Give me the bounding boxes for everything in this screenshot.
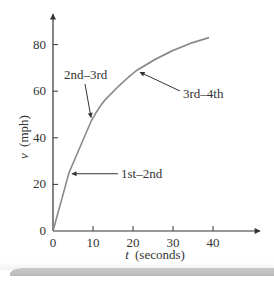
y-tick-label: 20 xyxy=(33,176,46,191)
annotations: 1st–2nd2nd–3rd3rd–4th xyxy=(64,67,224,181)
x-axis-var: t xyxy=(125,247,129,262)
x-axis-label: t (seconds) xyxy=(125,247,185,262)
y-tick-label: 40 xyxy=(33,130,46,145)
page-shadow-bar xyxy=(10,268,274,276)
annotation-2nd-3rd: 2nd–3rd xyxy=(64,67,108,82)
y-axis-label: v (mph) xyxy=(16,115,31,159)
annotation-1st-2nd: 1st–2nd xyxy=(121,166,163,181)
x-tick-label: 10 xyxy=(87,235,100,250)
velocity-chart: 010203040020406080 1st–2nd2nd–3rd3rd–4th… xyxy=(0,0,274,281)
x-tick-label: 40 xyxy=(207,235,220,250)
ticks: 010203040020406080 xyxy=(33,37,220,250)
annotation-arrow-2nd-3rd xyxy=(85,84,91,117)
annotation-arrow-3rd-4th xyxy=(140,72,180,91)
y-tick-label: 60 xyxy=(33,83,46,98)
annotation-3rd-4th: 3rd–4th xyxy=(183,86,224,101)
y-tick-label: 0 xyxy=(40,223,47,238)
x-tick-label: 0 xyxy=(50,235,57,250)
y-axis-unit: (mph) xyxy=(16,115,31,147)
y-tick-label: 80 xyxy=(33,37,46,52)
axes xyxy=(53,14,260,231)
y-axis-var: v xyxy=(16,153,31,159)
x-axis-unit: (seconds) xyxy=(135,247,185,262)
